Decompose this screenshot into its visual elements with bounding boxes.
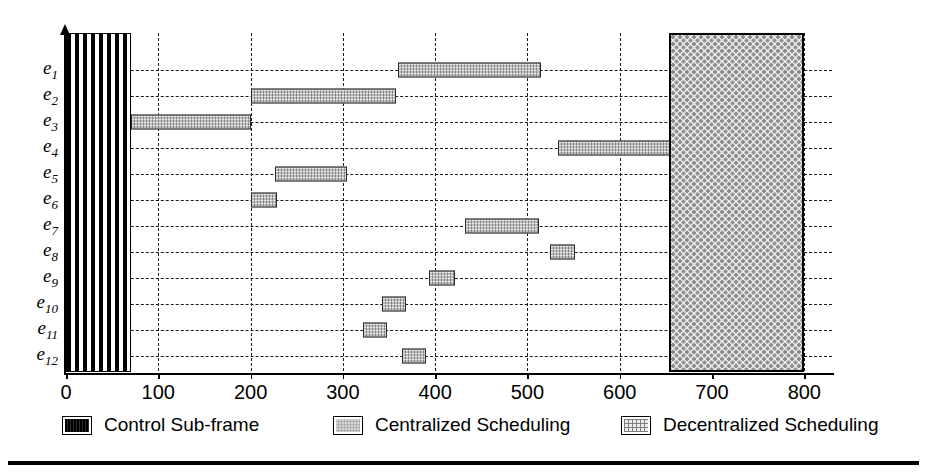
x-axis-tick-label: 800 — [769, 381, 839, 404]
x-axis-tick-label: 700 — [677, 381, 747, 404]
gantt-bar-e7 — [465, 219, 540, 234]
legend-item-0: Control Sub-frame — [62, 410, 259, 440]
y-axis-label-e6: e6 — [43, 187, 58, 213]
gantt-bar-e11 — [363, 323, 387, 338]
figure-bottom-rule — [8, 461, 919, 465]
legend-label: Control Sub-frame — [104, 414, 259, 436]
x-axis-tick-label: 600 — [585, 381, 655, 404]
x-axis-tick — [158, 373, 160, 379]
gantt-bar-e1 — [398, 63, 541, 78]
x-axis-tick — [343, 373, 345, 379]
legend-item-2: Decentralized Scheduling — [621, 410, 878, 440]
x-axis-tick-label: 400 — [400, 381, 470, 404]
y-axis-labels: e1e2e3e4e5e6e7e8e9e10e11e12 — [0, 33, 58, 371]
x-axis-tick — [66, 373, 68, 379]
control-subframe-block — [66, 33, 131, 372]
legend: Control Sub-frameCentralized SchedulingD… — [0, 408, 927, 446]
x-axis-tick-label: 300 — [308, 381, 378, 404]
gantt-bar-e8 — [550, 245, 576, 260]
gantt-bar-e10 — [382, 297, 406, 312]
gantt-bar-e9 — [429, 271, 455, 286]
x-axis-tick — [620, 373, 622, 379]
gantt-bar-e3 — [131, 115, 251, 130]
gantt-bar-e5 — [275, 167, 347, 182]
x-axis-tick — [712, 373, 714, 379]
y-axis-label-e8: e8 — [43, 239, 58, 265]
y-axis-label-e9: e9 — [43, 265, 58, 291]
x-axis-tick — [527, 373, 529, 379]
control-subframe-swatch — [62, 416, 92, 435]
y-axis-label-e2: e2 — [43, 83, 58, 109]
gantt-figure: e1e2e3e4e5e6e7e8e9e10e11e12 010020030040… — [0, 0, 927, 475]
y-axis-arrow-icon — [60, 24, 70, 35]
legend-item-1: Centralized Scheduling — [333, 410, 570, 440]
x-axis-tick — [435, 373, 437, 379]
y-axis-label-e4: e4 — [43, 135, 58, 161]
y-axis-label-e5: e5 — [43, 161, 58, 187]
x-axis-tick — [251, 373, 253, 379]
gantt-bar-e2 — [251, 89, 397, 104]
y-axis-label-e12: e12 — [37, 343, 58, 369]
y-axis-line — [64, 33, 66, 375]
y-axis-label-e11: e11 — [38, 317, 58, 343]
x-axis-line — [64, 373, 834, 375]
y-axis-label-e1: e1 — [43, 57, 58, 83]
x-axis-tick — [804, 373, 806, 379]
legend-swatch-fill — [624, 419, 648, 432]
decentralized-scheduling-swatch — [621, 416, 651, 435]
y-axis-label-e3: e3 — [43, 109, 58, 135]
plot-area — [66, 33, 832, 371]
legend-swatch-fill — [65, 419, 89, 432]
decentralized-scheduling-block — [669, 33, 805, 372]
x-axis-tick-label: 200 — [216, 381, 286, 404]
legend-label: Decentralized Scheduling — [663, 414, 878, 436]
gantt-bar-e12 — [402, 349, 426, 364]
gantt-bar-e4 — [558, 141, 671, 156]
centralized-scheduling-swatch — [333, 416, 363, 435]
x-axis-tick-label: 0 — [31, 381, 101, 404]
legend-label: Centralized Scheduling — [375, 414, 570, 436]
legend-swatch-fill — [336, 419, 360, 432]
gantt-bar-e6 — [251, 193, 278, 208]
x-axis-tick-label: 500 — [492, 381, 562, 404]
y-axis-label-e7: e7 — [43, 213, 58, 239]
y-axis-label-e10: e10 — [37, 291, 58, 317]
x-axis-tick-label: 100 — [123, 381, 193, 404]
